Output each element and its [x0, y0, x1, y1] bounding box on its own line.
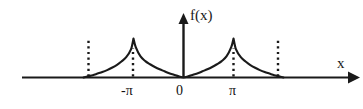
tick-label-zero: 0 — [176, 84, 183, 98]
tick-label-neg-pi: -π — [121, 84, 133, 98]
y-axis-label: f(x) — [190, 8, 213, 23]
y-axis-arrowhead — [179, 13, 189, 24]
tick-label-pi: π — [229, 84, 236, 98]
x-axis-arrowhead — [348, 72, 360, 84]
x-axis-label: x — [337, 56, 345, 71]
function-graph-figure: f(x) x -π 0 π — [0, 0, 363, 109]
